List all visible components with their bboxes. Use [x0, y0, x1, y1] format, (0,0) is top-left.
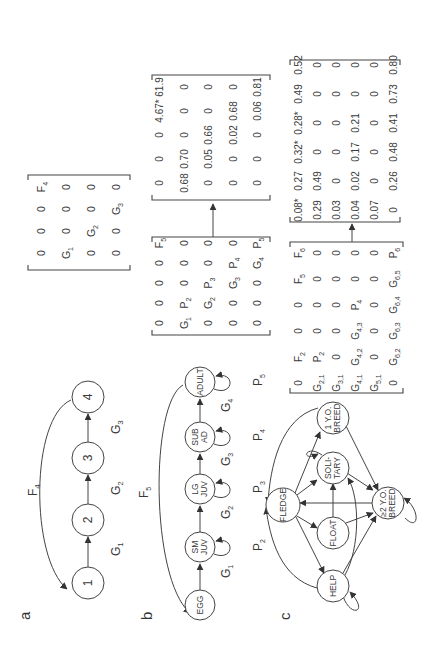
matrix-cell: 0.80	[388, 55, 399, 75]
node-fledge: FLEDGE	[266, 488, 300, 522]
matrix-cell: G6,3	[388, 322, 401, 340]
matrix-a-left-bracket	[28, 265, 130, 270]
matrix-cell: 0.49	[293, 84, 304, 104]
matrix-cell: 0	[202, 260, 214, 266]
matrix-cell: 0	[331, 91, 342, 97]
matrix-cell: P2	[178, 297, 192, 308]
edge-1yo-to-2yo	[346, 426, 378, 490]
matrix-cell: 0.49	[312, 171, 323, 191]
matrix-cell: 0	[202, 240, 214, 246]
matrix-cell: P5	[251, 374, 266, 386]
matrix-cell: G5,1	[369, 374, 382, 392]
matrix-cell: 0	[369, 91, 380, 97]
matrix-cell: 0	[35, 206, 47, 212]
matrix-cell: 0	[110, 228, 122, 234]
matrix-cell: 0	[369, 178, 380, 184]
matrix-a: 000F4G10000G20000G30	[28, 175, 130, 270]
matrix-cell: 0	[312, 120, 323, 126]
matrix-cell: 0	[350, 62, 361, 68]
matrix-cell: 0.04	[350, 200, 361, 220]
matrix-cell: 0	[293, 380, 304, 386]
node-adult: ADULT	[185, 367, 215, 397]
matrix-cell: 0	[312, 62, 323, 68]
matrix-cell: 0.68	[228, 101, 239, 121]
matrix-cell: 0	[203, 84, 214, 90]
matrix-cell: G6,2	[388, 348, 401, 366]
matrix-cell: G2	[202, 297, 216, 309]
matrix-cell: 0	[60, 228, 72, 234]
matrix-cell: G4,1	[350, 374, 363, 392]
matrix-cell: 0	[179, 132, 190, 138]
matrix-cell: P3	[251, 481, 266, 493]
self-loop-smjuv	[214, 540, 230, 555]
matrix-cell: 0	[154, 180, 165, 186]
self-loop-subad	[214, 430, 230, 445]
matrix-b-numeric: 0004.67*61.90.680.7000000.050.6600000.02…	[152, 75, 270, 200]
self-loop-lgjuv	[214, 482, 230, 497]
node-sub-ad: SUB AD	[185, 422, 215, 452]
matrix-cell: 0	[331, 328, 342, 334]
node-2yo-breed: ≥2 Y.O. BREED	[372, 487, 404, 519]
node-help: HELP	[317, 570, 349, 602]
svg-text:ADULT: ADULT	[195, 368, 205, 395]
matrix-cell: 0.68	[179, 173, 190, 193]
matrix-cell: G2	[85, 225, 99, 237]
matrix-cell: 0	[369, 302, 380, 308]
matrix-cell: 0	[369, 250, 380, 256]
matrix-cell: 0	[312, 276, 323, 282]
matrix-cell: 0	[312, 149, 323, 155]
edge-4-to-1-fecundity	[40, 400, 71, 589]
matrix-cell: G1	[178, 317, 192, 329]
matrix-cell: 0	[178, 280, 190, 286]
matrix-cell: 0	[369, 62, 380, 68]
matrix-cell: 0	[203, 180, 214, 186]
matrix-cell: 0	[312, 302, 323, 308]
matrix-cell: P2	[251, 539, 266, 551]
matrix-cell: 0	[331, 62, 342, 68]
matrix-cell: P3	[202, 277, 216, 288]
node-3: 3	[72, 442, 104, 474]
matrix-cell: 0	[369, 276, 380, 282]
matrix-cell: G1	[60, 247, 74, 259]
node-sm-juv: SM JUV	[185, 532, 215, 562]
matrix-cell: 0	[312, 328, 323, 334]
matrix-cell: 0	[154, 132, 165, 138]
matrix-cell: 0	[178, 260, 190, 266]
matrix-cell: 0	[251, 320, 263, 326]
panel-a-label: a	[16, 611, 33, 620]
self-loop-2yo	[404, 498, 416, 523]
edge-float-to-2yo	[346, 513, 373, 523]
svg-text:FLOAT: FLOAT	[328, 520, 338, 547]
matrix-cell: F5	[293, 274, 306, 284]
matrix-cell: 0	[110, 184, 122, 190]
matrix-cell: G3	[219, 453, 234, 466]
matrix-cell: 0	[331, 250, 342, 256]
matrix-cell: 0	[252, 180, 263, 186]
matrix-cell: F6	[293, 248, 306, 258]
matrix-cell: P4	[251, 429, 266, 441]
svg-text:EGG: EGG	[195, 596, 205, 615]
matrix-cell: 0	[203, 108, 214, 114]
node-float: FLOAT	[317, 517, 349, 549]
matrix-cell: P4	[350, 300, 363, 311]
matrix-cell: 0	[312, 91, 323, 97]
node-2: 2	[72, 504, 104, 536]
node-solitary: SOLI- TARY	[317, 452, 349, 484]
matrix-cell: 0	[293, 328, 304, 334]
svg-text:2: 2	[81, 516, 95, 523]
matrix-cell: 0	[227, 240, 239, 246]
matrix-cell: 0.03	[331, 200, 342, 220]
matrix-cell: 0	[369, 120, 380, 126]
svg-text:JUV: JUV	[199, 481, 209, 497]
matrix-cell: 0	[35, 250, 47, 256]
matrix-cell: 0	[350, 250, 361, 256]
matrix-cell: 0	[179, 84, 190, 90]
matrix-cell: F4	[35, 182, 49, 192]
matrix-cell: 0.52	[293, 55, 304, 75]
matrix-cell: P5	[251, 237, 265, 248]
panel-c-label: c	[276, 612, 293, 620]
matrix-cell: 0.66	[203, 125, 214, 145]
matrix-cell: 0	[85, 206, 97, 212]
matrix-cell: G2	[219, 506, 234, 519]
matrix-cell: 0	[293, 302, 304, 308]
